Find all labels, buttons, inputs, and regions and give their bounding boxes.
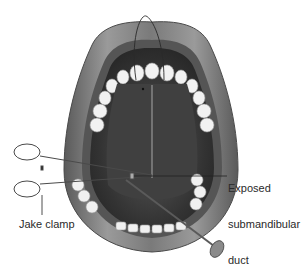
label-duct-line3: duct bbox=[228, 254, 304, 266]
label-exposed-submandibular-duct: Exposed submandibular duct bbox=[228, 158, 304, 269]
label-jake-clamp: Jake clamp bbox=[19, 218, 75, 230]
label-duct-line2: submandibular bbox=[228, 218, 304, 230]
label-duct-line1: Exposed bbox=[228, 182, 304, 194]
